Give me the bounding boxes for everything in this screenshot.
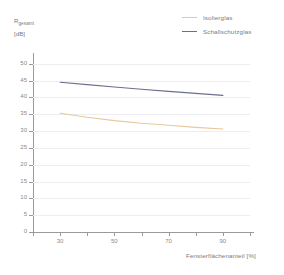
- x-tick-label: 50: [104, 238, 124, 244]
- chart-legend: Isolierglas Schallschutzglas: [182, 10, 282, 38]
- y-tick-label: 35: [13, 110, 27, 116]
- x-tick-mark: [33, 232, 34, 236]
- legend-swatch-schallschutzglas: [182, 31, 197, 32]
- x-tick-mark: [114, 232, 115, 236]
- x-tick-label: 30: [50, 238, 70, 244]
- x-tick-label: 90: [213, 238, 233, 244]
- y-tick-label: 15: [13, 178, 27, 184]
- x-tick-label: 70: [159, 238, 179, 244]
- y-tick-label: 5: [13, 211, 27, 217]
- y-axis-title-unit: [dB]: [14, 29, 34, 39]
- y-axis-title-subscript: gesamt: [18, 21, 34, 26]
- legend-label-schallschutzglas: Schallschutzglas: [203, 28, 252, 35]
- y-tick-label: 30: [13, 127, 27, 133]
- y-tick-label: 25: [13, 144, 27, 150]
- y-tick-label: 50: [13, 60, 27, 66]
- x-tick-mark: [87, 232, 88, 236]
- x-tick-mark: [196, 232, 197, 236]
- plot-area: [33, 57, 250, 232]
- x-tick-mark: [142, 232, 143, 236]
- legend-label-isolierglas: Isolierglas: [203, 14, 233, 21]
- y-tick-label: 45: [13, 77, 27, 83]
- x-tick-mark: [250, 232, 251, 236]
- y-tick-label: 40: [13, 93, 27, 99]
- line-isolierglas: [60, 113, 223, 129]
- y-tick-label: 10: [13, 194, 27, 200]
- chart-container: Isolierglas Schallschutzglas Rgesamt [dB…: [0, 0, 284, 275]
- y-axis-title: Rgesamt [dB]: [14, 16, 34, 39]
- x-tick-mark: [169, 232, 170, 236]
- legend-item-isolierglas: Isolierglas: [182, 10, 282, 24]
- series-layer: [33, 57, 250, 232]
- y-tick-label: 0: [13, 228, 27, 234]
- x-axis-title: Fensterflächenanteil [%]: [186, 252, 256, 259]
- legend-item-schallschutzglas: Schallschutzglas: [182, 24, 282, 38]
- y-tick-label: 20: [13, 161, 27, 167]
- line-schallschutzglas: [60, 82, 223, 95]
- legend-swatch-isolierglas: [182, 17, 197, 18]
- x-tick-mark: [223, 232, 224, 236]
- x-tick-mark: [60, 232, 61, 236]
